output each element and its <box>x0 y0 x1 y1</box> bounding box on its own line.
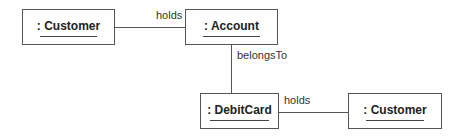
link-label-holds-2: holds <box>284 94 310 106</box>
object-account: : Account <box>185 9 278 45</box>
object-customer-1: : Customer <box>22 9 115 45</box>
object-underline <box>210 120 269 121</box>
object-name: : Customer <box>23 19 114 33</box>
object-debitcard: : DebitCard <box>200 93 279 129</box>
object-name: : DebitCard <box>201 103 278 117</box>
link-debitcard-customer <box>279 112 348 113</box>
link-label-belongsto: belongsTo <box>237 49 287 61</box>
object-customer-2: : Customer <box>348 93 442 129</box>
link-label-holds-1: holds <box>156 9 182 21</box>
link-account-debitcard <box>231 44 232 93</box>
object-name: : Account <box>186 19 277 33</box>
link-customer-account <box>115 27 185 28</box>
object-underline <box>40 36 97 37</box>
object-underline <box>203 36 260 37</box>
object-underline <box>366 120 424 121</box>
object-name: : Customer <box>349 103 441 117</box>
